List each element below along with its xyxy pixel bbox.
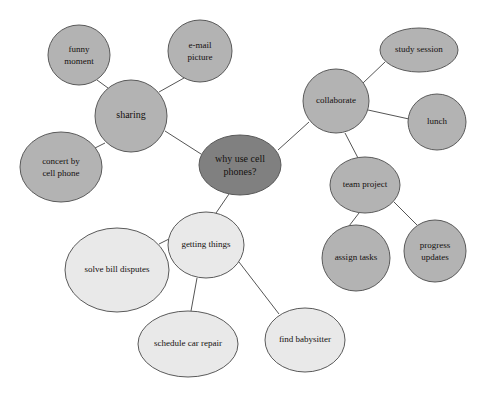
mind-map-canvas: why use cellphones?sharingfunnymomente-m… <box>0 0 480 396</box>
node-label-sharing: sharing <box>116 109 145 120</box>
node-label-schedule-car-repair: schedule car repair <box>154 338 222 348</box>
node-assign-tasks[interactable]: assign tasks <box>322 225 390 291</box>
edge-team-project-assign-tasks <box>349 213 359 226</box>
node-concert-by-cell-phone[interactable]: concert bycell phone <box>20 132 102 202</box>
edge-getting-things-schedule-car <box>191 278 197 311</box>
edge-center-getting-things <box>216 194 229 213</box>
node-label-team-project: team project <box>343 179 388 189</box>
node-label-solve-bill-disputes: solve bill disputes <box>85 264 150 274</box>
node-funny-moment[interactable]: funnymoment <box>48 25 110 85</box>
node-progress-updates[interactable]: progressupdates <box>404 220 466 282</box>
edge-team-project-progress-updates <box>394 202 417 225</box>
node-label-funny-moment: moment <box>64 56 94 66</box>
node-label-getting-things: getting things <box>181 239 231 249</box>
node-getting-things[interactable]: getting things <box>168 212 244 278</box>
node-sharing[interactable]: sharing <box>95 80 167 152</box>
edge-collaborate-study-session <box>363 62 385 83</box>
node-label-progress-updates: progress <box>420 240 451 250</box>
edge-sharing-funny-moment <box>97 80 108 88</box>
edge-center-collaborate <box>278 122 309 150</box>
node-shape-email-picture <box>168 20 232 82</box>
node-collaborate[interactable]: collaborate <box>303 69 369 133</box>
node-label-find-babysitter: find babysitter <box>279 334 331 344</box>
node-label-study-session: study session <box>395 44 443 54</box>
node-solve-bill-disputes[interactable]: solve bill disputes <box>65 228 169 312</box>
node-label-email-picture: e-mail <box>189 40 212 50</box>
node-label-center: why use cell <box>215 153 265 164</box>
node-label-lunch: lunch <box>427 116 447 126</box>
node-team-project[interactable]: team project <box>330 157 400 213</box>
node-label-center: phones? <box>224 166 257 177</box>
node-find-babysitter[interactable]: find babysitter <box>265 308 345 372</box>
edge-collaborate-team-project <box>345 133 358 158</box>
node-label-progress-updates: updates <box>421 252 449 262</box>
mind-map-diagram: why use cellphones?sharingfunnymomente-m… <box>0 0 480 396</box>
nodes-layer: why use cellphones?sharingfunnymomente-m… <box>20 20 466 377</box>
node-label-funny-moment: funny <box>69 44 90 54</box>
node-study-session[interactable]: study session <box>380 28 458 72</box>
edge-center-sharing <box>165 131 201 154</box>
node-shape-progress-updates <box>404 220 466 282</box>
node-label-collaborate: collaborate <box>316 95 356 105</box>
node-label-assign-tasks: assign tasks <box>335 252 378 262</box>
node-label-email-picture: picture <box>188 52 213 62</box>
node-schedule-car-repair[interactable]: schedule car repair <box>138 311 238 377</box>
node-center[interactable]: why use cellphones? <box>199 135 281 195</box>
edge-sharing-email-picture <box>159 78 184 92</box>
edge-collaborate-lunch <box>368 110 409 119</box>
node-lunch[interactable]: lunch <box>408 94 466 150</box>
edge-getting-things-find-babysitter <box>239 262 279 314</box>
node-label-concert-by-cell-phone: cell phone <box>42 168 79 178</box>
node-shape-concert-by-cell-phone <box>20 132 102 202</box>
node-shape-funny-moment <box>48 25 110 85</box>
node-email-picture[interactable]: e-mailpicture <box>168 20 232 82</box>
edge-getting-things-solve-bill <box>159 239 169 244</box>
node-label-concert-by-cell-phone: concert by <box>42 156 80 166</box>
